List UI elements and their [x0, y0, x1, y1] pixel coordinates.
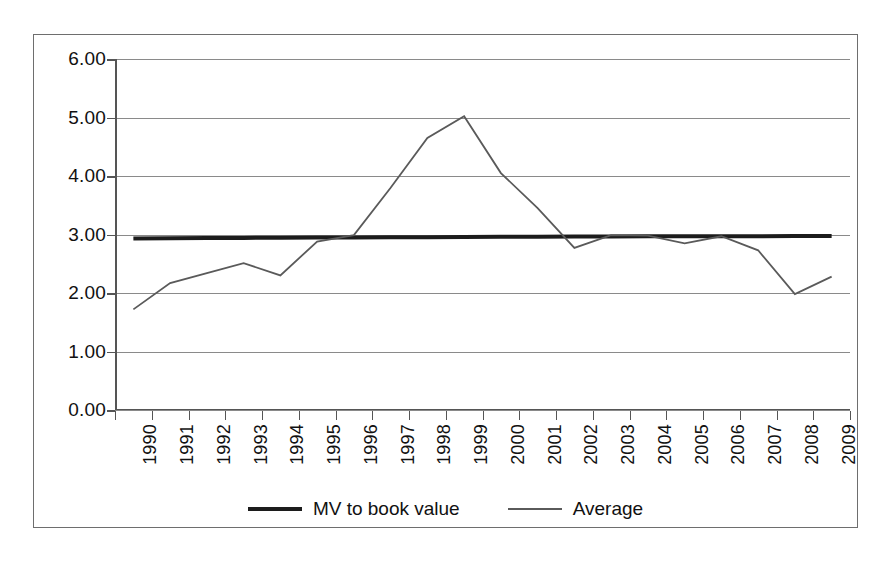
x-tick-mark — [446, 411, 447, 420]
y-tick-label: 2.00 — [68, 282, 106, 304]
plot-area — [115, 59, 850, 410]
x-tick-mark — [593, 411, 594, 420]
y-tick-mark — [107, 176, 115, 178]
x-tick-label: 1995 — [324, 424, 345, 465]
x-tick-mark — [336, 411, 337, 420]
x-tick-mark — [299, 411, 300, 420]
y-tick-mark — [107, 118, 115, 120]
thin-line-swatch — [508, 508, 562, 510]
y-tick-mark — [107, 59, 115, 61]
x-tick-label: 1991 — [177, 424, 198, 465]
x-tick-mark — [115, 411, 116, 420]
x-tick-label: 1999 — [471, 424, 492, 465]
series-layer — [115, 59, 850, 410]
x-tick-mark — [519, 411, 520, 420]
x-tick-label: 2002 — [581, 424, 602, 465]
y-tick-label: 6.00 — [68, 48, 106, 70]
y-tick-label: 3.00 — [68, 224, 106, 246]
x-tick-mark — [409, 411, 410, 420]
x-tick-mark — [777, 411, 778, 420]
x-tick-label: 2006 — [728, 424, 749, 465]
x-tick-label: 1998 — [434, 424, 455, 465]
x-tick-mark — [666, 411, 667, 420]
series-line — [133, 116, 831, 309]
x-tick-label: 1990 — [140, 424, 161, 465]
thick-line-swatch — [248, 507, 302, 511]
x-tick-mark — [225, 411, 226, 420]
legend-label: MV to book value — [313, 498, 460, 520]
x-tick-label: 2001 — [545, 424, 566, 465]
x-tick-label: 2003 — [618, 424, 639, 465]
x-tick-label: 1994 — [287, 424, 308, 465]
y-tick-label: 0.00 — [68, 399, 106, 421]
x-tick-label: 1996 — [361, 424, 382, 465]
x-tick-mark — [189, 411, 190, 420]
x-tick-label: 2004 — [655, 424, 676, 465]
x-tick-mark — [556, 411, 557, 420]
x-tick-label: 1992 — [214, 424, 235, 465]
y-tick-label: 1.00 — [68, 341, 106, 363]
legend-entry[interactable]: MV to book value — [248, 498, 460, 520]
x-tick-label: 1997 — [398, 424, 419, 465]
x-tick-mark — [630, 411, 631, 420]
chart-figure: 6.005.004.003.002.001.000.00 19901991199… — [0, 0, 885, 562]
y-tick-label: 4.00 — [68, 165, 106, 187]
x-tick-mark — [703, 411, 704, 420]
y-tick-label: 5.00 — [68, 107, 106, 129]
y-axis-tick-labels: 6.005.004.003.002.001.000.00 — [38, 59, 106, 410]
x-tick-label: 1993 — [251, 424, 272, 465]
y-tick-mark — [107, 352, 115, 354]
x-tick-mark — [483, 411, 484, 420]
x-tick-label: 2009 — [839, 424, 860, 465]
x-tick-label: 2005 — [692, 424, 713, 465]
x-tick-mark — [262, 411, 263, 420]
legend-label: Average — [573, 498, 643, 520]
y-tick-mark — [107, 235, 115, 237]
x-tick-label: 2008 — [802, 424, 823, 465]
x-tick-label: 2000 — [508, 424, 529, 465]
x-tick-mark — [740, 411, 741, 420]
x-tick-label: 2007 — [765, 424, 786, 465]
y-tick-mark — [107, 293, 115, 295]
legend-entry[interactable]: Average — [508, 498, 643, 520]
chart-legend: MV to book valueAverage — [33, 492, 858, 526]
x-tick-mark — [813, 411, 814, 420]
x-tick-mark — [372, 411, 373, 420]
x-axis-tick-marks — [115, 411, 850, 421]
y-tick-mark — [107, 410, 115, 412]
x-axis-tick-labels: 1990199119921993199419951996199719981999… — [115, 424, 850, 486]
x-tick-mark — [850, 411, 851, 420]
x-tick-mark — [152, 411, 153, 420]
